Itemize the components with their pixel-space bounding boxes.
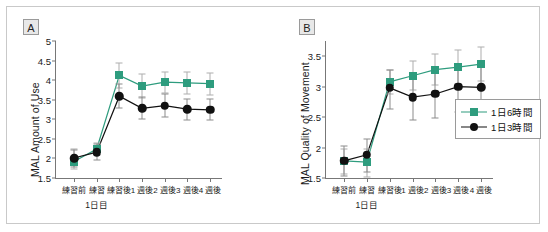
error-bar-cap (161, 71, 168, 72)
error-bar-cap (116, 84, 123, 85)
error-bar-cap (207, 72, 214, 73)
error-bar-cap (184, 119, 191, 120)
data-point-marker (115, 92, 124, 101)
error-bar-cap (455, 50, 462, 51)
x-tick-label: 練習前 (332, 184, 356, 195)
legend-marker-circle-icon (461, 121, 487, 132)
x-tick-mark (210, 178, 211, 182)
error-bar-cap (116, 107, 123, 108)
error-bar-cap (71, 150, 78, 151)
error-bar-cap (363, 171, 370, 172)
data-point-marker (454, 63, 462, 71)
panel-b-tag: B (299, 19, 315, 35)
error-bar-cap (207, 99, 214, 100)
error-bar-cap (139, 119, 146, 120)
figure-frame: A MAL Amount of Use 1.522.533.544.55練習前練… (6, 6, 540, 224)
data-point-marker (408, 93, 417, 102)
x-tick-mark (458, 178, 459, 182)
x-tick-label: 4 週後 (199, 184, 222, 195)
error-bar-cap (478, 47, 485, 48)
error-bar-cap (363, 139, 370, 140)
data-point-marker (160, 101, 169, 110)
x-tick-mark (165, 178, 166, 182)
x-tick-mark (413, 178, 414, 182)
x-tick-label: 練習 (89, 184, 105, 195)
data-point-marker (183, 79, 191, 87)
error-bar-cap (184, 98, 191, 99)
legend-label-3h: 1日3時間 (491, 120, 533, 134)
data-point-marker (138, 82, 146, 90)
x-tick-label: 1 週後 (401, 184, 424, 195)
x-axis-group-label: 1日目 (355, 198, 378, 210)
data-point-marker (409, 72, 417, 80)
data-point-marker (477, 60, 485, 68)
error-bar-cap (386, 69, 393, 70)
x-axis-group-label: 1日目 (85, 198, 108, 210)
error-bar-cap (161, 117, 168, 118)
data-point-marker (70, 154, 79, 163)
panel-a: A MAL Amount of Use 1.522.533.544.55練習前練… (7, 7, 275, 223)
error-bar-cap (341, 146, 348, 147)
error-bar-cap (71, 169, 78, 170)
data-point-marker (363, 158, 371, 166)
x-tick-label: 3 週後 (176, 184, 199, 195)
error-bar-cap (207, 94, 214, 95)
x-tick-label: 練習 (359, 184, 375, 195)
x-tick-label: 2 週後 (153, 184, 176, 195)
x-tick-label: 練習前 (62, 184, 86, 195)
panel-b-y-axis-label: MAL Quality of Movement (299, 62, 311, 185)
error-bar-cap (409, 120, 416, 121)
data-point-marker (431, 66, 439, 74)
x-tick-mark (74, 178, 75, 182)
x-tick-label: 1 週後 (131, 184, 154, 195)
x-tick-mark (390, 178, 391, 182)
x-tick-mark (481, 178, 482, 182)
error-bar-cap (341, 175, 348, 176)
data-point-marker (454, 82, 463, 91)
data-point-marker (206, 106, 215, 115)
error-bar-cap (432, 118, 439, 119)
x-tick-mark (344, 178, 345, 182)
x-tick-mark (97, 178, 98, 182)
error-bar-cap (161, 93, 168, 94)
data-point-marker (385, 84, 394, 93)
legend-label-6h: 1日6時間 (491, 105, 533, 119)
data-point-marker (206, 80, 214, 88)
legend-marker-square-icon (461, 106, 487, 117)
data-point-marker (183, 105, 192, 114)
legend-item: 1日6時間 (461, 104, 533, 119)
error-bar-cap (139, 74, 146, 75)
data-point-marker (340, 157, 349, 166)
error-bar-cap (409, 61, 416, 62)
panel-a-tag: A (23, 19, 39, 35)
error-bar-cap (207, 120, 214, 121)
legend: 1日6時間 1日3時間 (455, 99, 541, 139)
x-tick-mark (187, 178, 188, 182)
x-tick-label: 練習後 (107, 184, 131, 195)
x-tick-mark (119, 178, 120, 182)
panel-a-plot-area: 1.522.533.544.55練習前練習練習後1 週後2 週後3 週後4 週後… (55, 41, 222, 179)
x-tick-mark (435, 178, 436, 182)
data-point-marker (138, 104, 147, 113)
error-bar-cap (184, 93, 191, 94)
x-tick-label: 練習後 (378, 184, 402, 195)
data-point-marker (363, 151, 372, 160)
x-tick-label: 3 週後 (447, 184, 470, 195)
error-bar-cap (116, 62, 123, 63)
error-bar-cap (93, 159, 100, 160)
x-tick-mark (367, 178, 368, 182)
error-bar-cap (363, 177, 370, 178)
data-point-marker (92, 148, 101, 157)
data-point-marker (115, 71, 123, 79)
error-bar-cap (432, 53, 439, 54)
error-bar-cap (184, 71, 191, 72)
data-point-marker (477, 83, 486, 92)
data-point-marker (431, 90, 440, 99)
x-tick-label: 2 週後 (424, 184, 447, 195)
x-tick-mark (142, 178, 143, 182)
error-bar-cap (71, 166, 78, 167)
data-point-marker (161, 78, 169, 86)
error-bar-cap (139, 97, 146, 98)
error-bar-cap (93, 143, 100, 144)
error-bar-cap (386, 109, 393, 110)
